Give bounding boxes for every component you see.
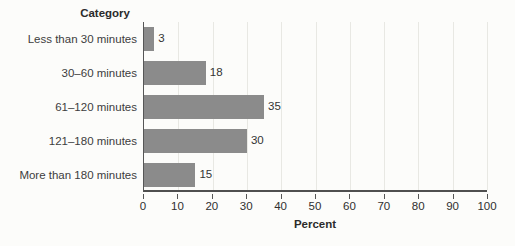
bar-row: 18 — [144, 56, 487, 90]
x-tick-label: 10 — [171, 200, 184, 212]
bar — [144, 163, 195, 187]
bar-row: 35 — [144, 90, 487, 124]
x-tick-mark — [281, 194, 282, 199]
x-tick-mark — [418, 194, 419, 199]
bar-value-label: 35 — [268, 101, 281, 113]
plot-area: 318353015 — [143, 22, 487, 192]
bar — [144, 129, 247, 153]
x-tick-label: 40 — [274, 200, 287, 212]
x-tick-mark — [384, 194, 385, 199]
x-tick-mark — [143, 194, 144, 199]
x-tick-label: 20 — [205, 200, 218, 212]
x-tick-label: 90 — [446, 200, 459, 212]
category-label: 121–180 minutes — [0, 124, 137, 158]
bar-value-label: 30 — [251, 135, 264, 147]
bar-row: 15 — [144, 158, 487, 192]
category-labels: Less than 30 minutes30–60 minutes61–120 … — [0, 22, 137, 192]
gridline — [487, 22, 488, 190]
x-tick-mark — [177, 194, 178, 199]
x-tick-label: 70 — [377, 200, 390, 212]
x-tick-mark — [487, 194, 488, 199]
x-axis: 0102030405060708090100 — [143, 194, 487, 216]
category-label: 61–120 minutes — [0, 90, 137, 124]
x-tick-mark — [315, 194, 316, 199]
category-label: 30–60 minutes — [0, 56, 137, 90]
category-label: More than 180 minutes — [0, 158, 137, 192]
bar-value-label: 3 — [158, 33, 164, 45]
bar-value-label: 15 — [199, 169, 212, 181]
x-tick-mark — [453, 194, 454, 199]
x-tick-label: 50 — [309, 200, 322, 212]
x-tick-mark — [349, 194, 350, 199]
bar-chart: Category Less than 30 minutes30–60 minut… — [0, 0, 515, 246]
x-tick-label: 60 — [343, 200, 356, 212]
bar-row: 3 — [144, 22, 487, 56]
x-tick-mark — [212, 194, 213, 199]
x-tick-label: 0 — [140, 200, 146, 212]
bar — [144, 95, 264, 119]
bar — [144, 61, 206, 85]
x-tick-label: 100 — [477, 200, 496, 212]
bar-row: 30 — [144, 124, 487, 158]
x-axis-title: Percent — [143, 218, 487, 230]
y-axis-title: Category — [0, 7, 130, 19]
x-tick-label: 80 — [412, 200, 425, 212]
bar — [144, 27, 154, 51]
bar-value-label: 18 — [210, 67, 223, 79]
x-tick-label: 30 — [240, 200, 253, 212]
category-label: Less than 30 minutes — [0, 22, 137, 56]
x-tick-mark — [246, 194, 247, 199]
